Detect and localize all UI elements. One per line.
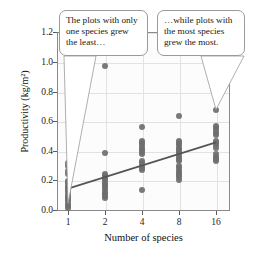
xtick-label-1: 1	[57, 217, 79, 228]
data-point	[102, 195, 108, 201]
y-axis-title: Productivity (kg/m²)	[19, 37, 30, 187]
data-point	[102, 150, 108, 156]
xtick-mark-16	[216, 211, 217, 215]
ytick-label-0.0: 0.0	[27, 205, 53, 215]
xtick-mark-2	[105, 211, 106, 215]
ytick-label-0.2: 0.2	[27, 175, 53, 185]
xtick-label-8: 8	[168, 217, 190, 228]
ytick-mark-0.0	[53, 210, 57, 211]
chart-figure: 1.2 1.0 0.8 0.6 0.4 0.2 0.0 1 2 4 8 16 P…	[0, 0, 264, 259]
x-axis-title: Number of species	[57, 232, 230, 243]
ytick-label-1.0: 1.0	[27, 57, 53, 67]
callout-left-species: The plots with only one species grew the…	[59, 10, 148, 56]
ytick-label-0.6: 0.6	[27, 116, 53, 126]
data-point	[213, 145, 219, 151]
ytick-mark-0.6	[53, 121, 57, 122]
data-point	[213, 107, 219, 113]
data-point	[176, 113, 182, 119]
ytick-label-1.2: 1.2	[27, 27, 53, 37]
xtick-label-4: 4	[131, 217, 153, 228]
xtick-mark-4	[142, 211, 143, 215]
xtick-label-16: 16	[205, 217, 227, 228]
data-point	[176, 177, 182, 183]
ytick-label-0.4: 0.4	[27, 146, 53, 156]
xtick-mark-8	[179, 211, 180, 215]
callout-most-species: …while plots with the most species grew …	[157, 10, 245, 56]
data-point	[65, 171, 71, 177]
ytick-mark-0.4	[53, 151, 57, 152]
gridline-x-8	[180, 33, 181, 210]
data-point	[213, 158, 219, 164]
ytick-mark-1.2	[53, 32, 57, 33]
ytick-mark-1.0	[53, 62, 57, 63]
gridline-x-16	[217, 33, 218, 210]
ytick-mark-0.2	[53, 180, 57, 181]
plot-area	[57, 32, 230, 211]
ytick-label-0.8: 0.8	[27, 87, 53, 97]
data-point	[65, 205, 71, 211]
xtick-label-2: 2	[94, 217, 116, 228]
data-point	[139, 167, 145, 173]
ytick-mark-0.8	[53, 92, 57, 93]
gridline-x-4	[143, 33, 144, 210]
xtick-mark-1	[68, 211, 69, 215]
